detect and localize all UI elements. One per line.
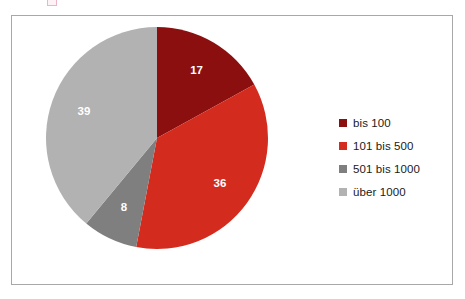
legend-item-label: 101 bis 500 bbox=[353, 140, 414, 152]
legend-item-label: bis 100 bbox=[353, 117, 391, 129]
pie-slice-group bbox=[46, 27, 268, 249]
pie-chart-svg: 1736839 bbox=[41, 21, 273, 261]
chart-frame: 1736839 bis 100 101 bis 500 501 bis 1000… bbox=[11, 15, 453, 285]
legend-swatch-icon bbox=[339, 142, 347, 150]
pie-data-label: 36 bbox=[214, 177, 227, 189]
legend-item[interactable]: 101 bis 500 bbox=[339, 134, 459, 157]
legend-swatch-icon bbox=[339, 165, 347, 173]
pie-chart: 1736839 bbox=[41, 21, 273, 261]
pie-data-label: 39 bbox=[78, 105, 91, 117]
chart-legend: bis 100 101 bis 500 501 bis 1000 über 10… bbox=[339, 111, 459, 203]
clipped-top-artifact bbox=[47, 0, 57, 6]
legend-item[interactable]: über 1000 bbox=[339, 180, 459, 203]
legend-item-label: über 1000 bbox=[353, 186, 406, 198]
pie-data-label: 17 bbox=[190, 64, 203, 76]
legend-item-label: 501 bis 1000 bbox=[353, 163, 420, 175]
legend-item[interactable]: bis 100 bbox=[339, 111, 459, 134]
legend-swatch-icon bbox=[339, 119, 347, 127]
pie-data-label: 8 bbox=[121, 201, 128, 213]
legend-item[interactable]: 501 bis 1000 bbox=[339, 157, 459, 180]
legend-swatch-icon bbox=[339, 188, 347, 196]
